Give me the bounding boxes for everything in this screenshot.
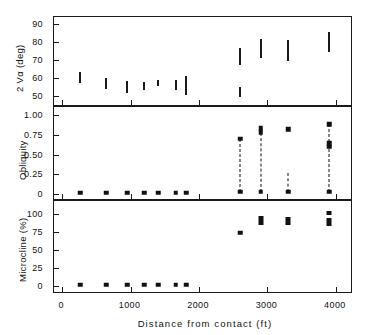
data-point-marker (142, 190, 147, 195)
data-point-marker (327, 122, 332, 127)
figure-root: 5060708090 2 Vα (deg) 00.250.500.751.00 … (0, 0, 374, 335)
range-bar (328, 32, 330, 52)
range-bar (157, 80, 159, 86)
x-tick-label: 0 (59, 300, 64, 310)
panel-microcline: 0255075100 (53, 200, 352, 293)
x-tick-mark (336, 100, 337, 105)
range-bar (126, 81, 128, 94)
data-point-marker (104, 283, 109, 288)
connector-line (240, 139, 241, 192)
data-point-marker (238, 230, 243, 235)
data-point-marker (238, 136, 243, 141)
data-point-marker (125, 283, 130, 288)
x-tick-mark (267, 287, 268, 292)
range-bar (287, 40, 289, 61)
x-tick-label: 2000 (187, 300, 209, 310)
x-tick-mark (62, 100, 63, 105)
x-tick-label: 1000 (119, 300, 141, 310)
y-tick-mark (54, 24, 59, 25)
y-tick-mark (54, 135, 59, 136)
y-tick-mark (54, 42, 59, 43)
x-tick-mark (131, 194, 132, 199)
data-point-cluster (327, 218, 332, 226)
data-point-marker (184, 190, 189, 195)
panel-obliquity: 00.250.500.751.00 (53, 106, 352, 200)
range-bar (105, 78, 107, 89)
data-point-marker (286, 127, 291, 132)
y-tick-mark (54, 78, 59, 79)
y-tick-label: 50 (3, 91, 43, 101)
y-tick-mark (54, 286, 59, 287)
y-axis-title-2v-alpha: 2 Vα (deg) (14, 44, 25, 92)
data-point-marker (142, 283, 147, 288)
x-axis-title: Distance from contact (ft) (138, 318, 273, 329)
y-tick-label: 0 (3, 189, 43, 199)
data-point-marker (286, 190, 291, 195)
x-tick-mark (336, 194, 337, 199)
y-tick-label: 0 (3, 281, 43, 291)
data-point-cluster (258, 216, 263, 225)
data-point-marker (156, 283, 161, 288)
x-tick-mark (62, 287, 63, 292)
y-tick-mark (54, 60, 59, 61)
panel-2v-alpha: 5060708090 (53, 16, 352, 106)
y-tick-label: 90 (3, 19, 43, 29)
data-point-marker (327, 190, 332, 195)
y-tick-mark (54, 96, 59, 97)
x-tick-mark (131, 287, 132, 292)
range-bar (143, 82, 145, 90)
range-bar (239, 48, 241, 65)
y-tick-mark (54, 268, 59, 269)
connector-line (260, 128, 261, 191)
data-point-marker (327, 144, 332, 149)
x-tick-mark (62, 194, 63, 199)
y-tick-mark (54, 155, 59, 156)
data-point-cluster (327, 211, 332, 215)
x-tick-mark (131, 100, 132, 105)
data-point-marker (258, 190, 263, 195)
y-tick-mark (54, 194, 59, 195)
x-tick-mark (199, 287, 200, 292)
range-bar (260, 39, 262, 59)
data-point-marker (156, 190, 161, 195)
y-tick-label: 1.00 (3, 110, 43, 120)
y-tick-mark (54, 250, 59, 251)
data-point-marker (104, 190, 109, 195)
y-tick-mark (54, 214, 59, 215)
x-tick-mark (199, 100, 200, 105)
x-tick-mark (267, 194, 268, 199)
range-bar (239, 87, 241, 97)
plot-area-2v-alpha: 5060708090 (54, 17, 351, 105)
plot-area-obliquity: 00.250.500.751.00 (54, 107, 351, 199)
x-tick-mark (199, 194, 200, 199)
x-tick-label: 4000 (324, 300, 346, 310)
data-point-marker (258, 130, 263, 135)
data-point-marker (238, 190, 243, 195)
range-bar (175, 80, 177, 90)
y-axis-title-obliquity: Obliquity (17, 140, 28, 180)
plot-area-microcline: 0255075100 (54, 201, 351, 292)
y-tick-mark (54, 174, 59, 175)
x-tick-label: 3000 (256, 300, 278, 310)
data-point-marker (78, 283, 83, 288)
x-tick-mark (336, 287, 337, 292)
y-tick-mark (54, 115, 59, 116)
data-point-marker (125, 190, 130, 195)
connector-line (329, 124, 330, 191)
data-point-marker (78, 190, 83, 195)
y-tick-mark (54, 232, 59, 233)
range-bar (79, 72, 81, 84)
data-point-cluster (286, 217, 291, 226)
range-bar (185, 76, 187, 95)
data-point-marker (184, 283, 189, 288)
y-tick-label: 0.75 (3, 130, 43, 140)
data-point-marker (174, 283, 179, 288)
y-axis-title-microcline: Microcline (%) (17, 218, 28, 282)
data-point-marker (174, 190, 179, 195)
x-tick-mark (267, 100, 268, 105)
